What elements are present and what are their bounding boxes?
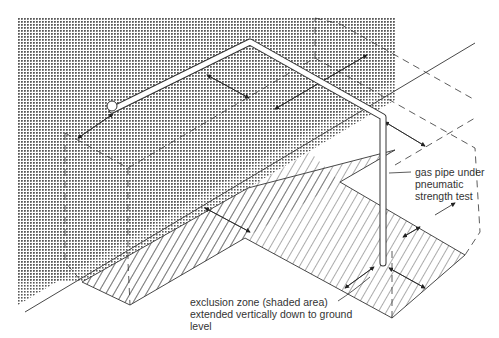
pipe-label-leader xyxy=(389,172,411,173)
pipe-label: gas pipe under pneumatic strength test xyxy=(415,166,484,202)
pipe-cap-end xyxy=(107,101,117,111)
exclusion-zone-label: exclusion zone (shaded area) extended ve… xyxy=(190,296,352,332)
